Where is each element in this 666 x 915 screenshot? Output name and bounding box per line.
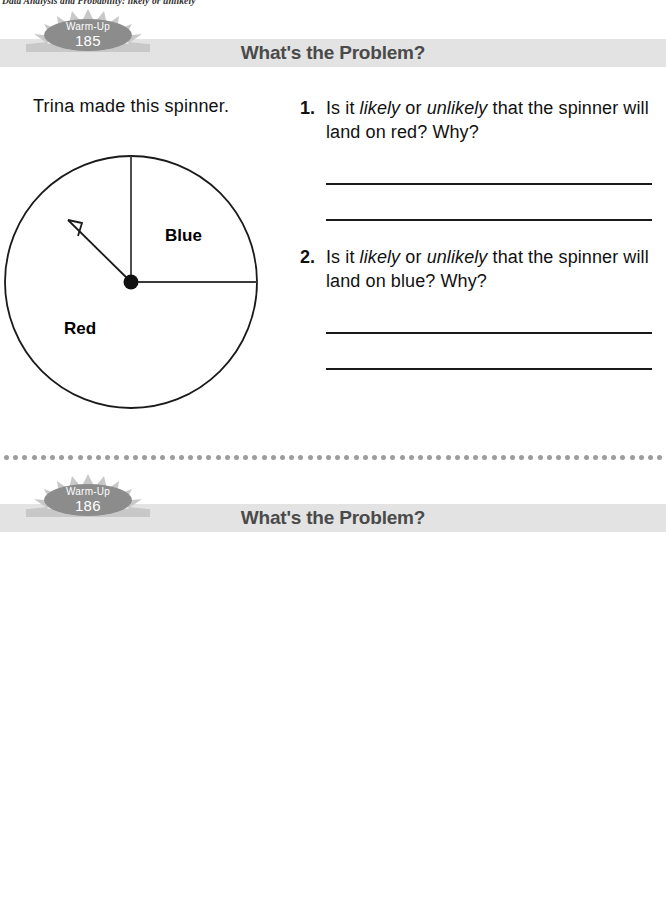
divider-dot [556, 455, 561, 460]
spinner-hub [124, 275, 139, 290]
divider-dot [317, 455, 322, 460]
answer-line[interactable] [326, 332, 652, 334]
divider-dot [354, 455, 359, 460]
divider-dot [87, 455, 92, 460]
divider-dot [344, 455, 349, 460]
divider-dot [197, 455, 202, 460]
divider-dot [41, 455, 46, 460]
divider-dot [234, 455, 239, 460]
divider-dot [271, 455, 276, 460]
divider-dot [574, 455, 579, 460]
running-head: Data Analysis and Probability: likely or… [2, 0, 196, 6]
divider-dot [602, 455, 607, 460]
question-item: 2. Is it likely or unlikely that the spi… [300, 245, 666, 370]
divider-dot [418, 455, 423, 460]
divider-dot [32, 455, 37, 460]
divider-dot [593, 455, 598, 460]
divider-dot [243, 455, 248, 460]
divider-dot [124, 455, 129, 460]
divider-dot [464, 455, 469, 460]
spinner-diagram-quarter: Blue Red [0, 141, 266, 407]
question-item: 1. Is it likely or unlikely that the spi… [300, 96, 666, 221]
divider-dot [501, 455, 506, 460]
question-emphasis-unlikely: unlikely [427, 247, 488, 267]
answer-line[interactable] [326, 368, 652, 370]
divider-dot [308, 455, 313, 460]
question-emphasis-unlikely: unlikely [427, 98, 488, 118]
answer-line[interactable] [326, 183, 652, 185]
divider-dot [59, 455, 64, 460]
questions-column: 1. Is it likely or unlikely that the spi… [300, 96, 666, 370]
divider-dot [289, 455, 294, 460]
divider-dot [427, 455, 432, 460]
divider-dot [482, 455, 487, 460]
divider-dot [160, 455, 165, 460]
divider-dot [252, 455, 257, 460]
divider-dot [298, 455, 303, 460]
divider-dot [335, 455, 340, 460]
question-emphasis-likely: likely [360, 98, 401, 118]
badge-oval [44, 19, 132, 51]
answer-line[interactable] [326, 219, 652, 221]
question-text-pre: Is it [326, 247, 360, 267]
divider-dot [68, 455, 73, 460]
divider-dot [528, 455, 533, 460]
divider-dot [630, 455, 635, 460]
badge-oval [44, 484, 132, 516]
answer-lines [326, 183, 666, 221]
divider-dot [510, 455, 515, 460]
divider-dot [455, 455, 460, 460]
divider-dot [547, 455, 552, 460]
divider-dot [225, 455, 230, 460]
divider-dot [436, 455, 441, 460]
divider-dot [400, 455, 405, 460]
divider-dot [262, 455, 267, 460]
question-number: 1. [300, 96, 326, 120]
divider-dot [538, 455, 543, 460]
question-text-mid: or [400, 98, 426, 118]
divider-dot [611, 455, 616, 460]
divider-dot [648, 455, 653, 460]
warm-up-badge: Warm-Up 186 [26, 473, 150, 519]
divider-dot [390, 455, 395, 460]
divider-dot [492, 455, 497, 460]
divider-dot [565, 455, 570, 460]
divider-dot [206, 455, 211, 460]
question-text: Is it likely or unlikely that the spinne… [326, 245, 666, 293]
divider-dot [151, 455, 156, 460]
divider-dot [105, 455, 110, 460]
divider-dot [170, 455, 175, 460]
question-text-pre: Is it [326, 98, 360, 118]
divider-dot [216, 455, 221, 460]
divider-dot [4, 455, 9, 460]
divider-dot [50, 455, 55, 460]
divider-dot [78, 455, 83, 460]
divider-dot [409, 455, 414, 460]
divider-dot [96, 455, 101, 460]
divider-dot [326, 455, 331, 460]
divider-dot [372, 455, 377, 460]
divider-dot [620, 455, 625, 460]
question-spacer [300, 221, 666, 245]
divider-dot [280, 455, 285, 460]
divider-dot [446, 455, 451, 460]
question-text: Is it likely or unlikely that the spinne… [326, 96, 666, 144]
question-text-line2: land on red? Why? [326, 122, 479, 142]
divider-dot [473, 455, 478, 460]
question-number: 2. [300, 245, 326, 269]
divider-dot [519, 455, 524, 460]
divider-dot [584, 455, 589, 460]
divider-dot [657, 455, 662, 460]
divider-dot [188, 455, 193, 460]
sector-label-blue: Blue [165, 226, 202, 245]
divider-dot [22, 455, 27, 460]
question-text-line2: land on blue? Why? [326, 271, 487, 291]
divider-dot [133, 455, 138, 460]
section-divider [0, 455, 666, 462]
question-emphasis-likely: likely [360, 247, 401, 267]
sector-label-red: Red [64, 319, 96, 338]
warm-up-badge: Warm-Up 185 [26, 8, 150, 54]
question-text-post: that the spinner will [487, 98, 648, 118]
divider-dot [179, 455, 184, 460]
question-text-post: that the spinner will [487, 247, 648, 267]
